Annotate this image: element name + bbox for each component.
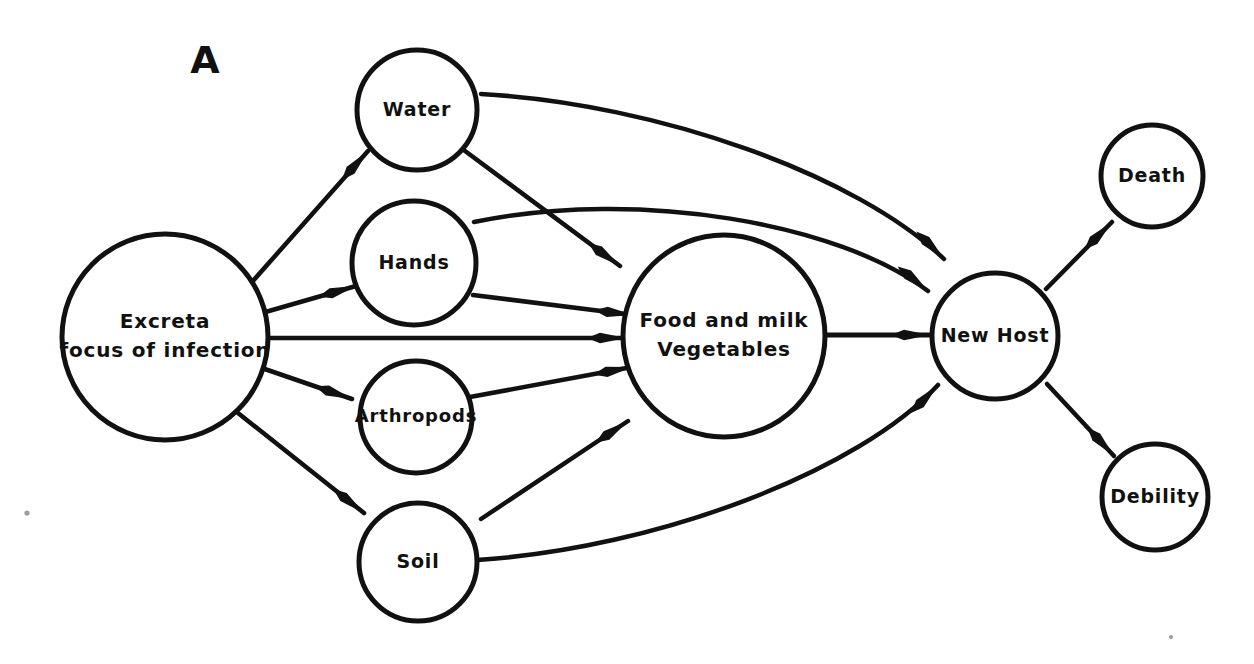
edge-newhost-to-death [1046, 218, 1116, 289]
arrowhead-icon [317, 281, 357, 302]
edge-food-to-newhost [828, 330, 930, 340]
arrowhead-icon [1081, 218, 1116, 253]
node-label-excreta: Excreta [120, 309, 211, 333]
node-label-food: Food and milk [640, 308, 809, 332]
panel-label-a: A [190, 38, 220, 82]
node-label-excreta: focus of infection [60, 338, 271, 362]
node-death[interactable]: Death [1101, 125, 1203, 227]
arrowhead-icon [587, 333, 626, 343]
edge-hands-to-food [473, 295, 634, 320]
node-arthropods[interactable]: Arthropods [355, 361, 477, 473]
edge-arthropods-to-food [470, 362, 633, 397]
node-label-newhost: New Host [941, 324, 1050, 346]
paper-speck [1169, 635, 1173, 639]
node-label-water: Water [383, 98, 451, 120]
node-water[interactable]: Water [357, 50, 477, 170]
transmission-diagram: Excretafocus of infectionWaterHandsArthr… [0, 0, 1254, 664]
edge-excreta-to-arthropods [256, 366, 354, 404]
arrowhead-icon [913, 228, 948, 263]
node-circle[interactable] [623, 235, 825, 437]
node-food[interactable]: Food and milkVegetables [623, 235, 825, 437]
edge-excreta-to-soil [238, 413, 367, 517]
node-newhost[interactable]: New Host [932, 273, 1058, 399]
edge-excreta-to-hands [262, 281, 357, 313]
arrowhead-icon [338, 148, 372, 184]
node-label-food: Vegetables [657, 337, 791, 361]
figure-container: Excretafocus of infectionWaterHandsArthr… [0, 0, 1254, 664]
node-label-hands: Hands [378, 251, 449, 273]
edge-newhost-to-debility [1047, 384, 1118, 460]
node-excreta[interactable]: Excretafocus of infection [60, 234, 271, 440]
edge-excreta-to-food [262, 333, 626, 343]
arrowhead-icon [1084, 424, 1118, 460]
node-circle[interactable] [62, 234, 268, 440]
node-debility[interactable]: Debility [1102, 444, 1208, 550]
arrowhead-icon [891, 330, 930, 340]
arrowhead-icon [907, 381, 942, 416]
node-hands[interactable]: Hands [352, 201, 476, 325]
arrowhead-icon [313, 381, 353, 404]
node-soil[interactable]: Soil [359, 503, 477, 621]
node-label-arthropods: Arthropods [355, 405, 477, 426]
node-label-debility: Debility [1110, 485, 1200, 507]
edge-soil-to-food [481, 417, 631, 519]
paper-specks [24, 510, 1173, 639]
node-label-soil: Soil [397, 550, 440, 572]
node-label-death: Death [1118, 164, 1186, 186]
paper-speck [24, 510, 29, 515]
